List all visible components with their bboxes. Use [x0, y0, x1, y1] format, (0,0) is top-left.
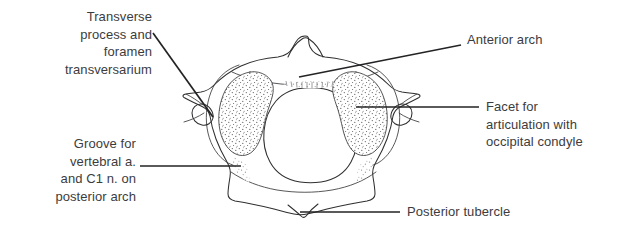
label-anterior-arch: Anterior arch [467, 31, 617, 49]
leader-line-anterior-arch [299, 45, 461, 77]
label-transverse-process-and-foramen-transversarium: Transverse process and foramen transvers… [14, 8, 152, 78]
posterior-tubercle-shape [288, 204, 318, 217]
superior-articular-facet-right [333, 72, 388, 156]
label-facet-for-articulation-with-occipital-condyle: Facet for articulation with occipital co… [486, 98, 626, 151]
leader-line-transverse-process [153, 33, 213, 117]
label-posterior-tubercle: Posterior tubercle [407, 203, 597, 221]
anatomical-figure: Transverse process and foramen transvers… [0, 0, 629, 235]
groove-vertebral-artery-right [357, 157, 374, 182]
label-groove-for-vertebral-artery: Groove for vertebral a. and C1 n. on pos… [14, 135, 136, 205]
anterior-tubercle-shape [288, 38, 323, 57]
superior-articular-facet-left [219, 72, 274, 156]
transverse-process-right [399, 94, 419, 122]
